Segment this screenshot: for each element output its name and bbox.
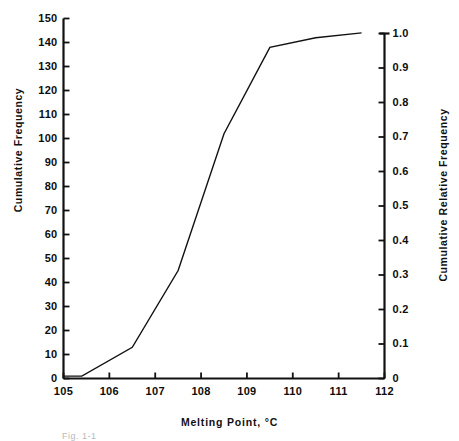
x-tick-111: 111 bbox=[314, 385, 364, 397]
y2-tick-1: 1.0 bbox=[393, 27, 433, 39]
y-tick-60: 60 bbox=[18, 228, 58, 240]
axes bbox=[64, 19, 385, 379]
x-tick-105: 105 bbox=[39, 385, 89, 397]
y-tick-130: 130 bbox=[18, 60, 58, 72]
x-tick-110: 110 bbox=[268, 385, 318, 397]
y-tick-80: 80 bbox=[18, 180, 58, 192]
y-tick-150: 150 bbox=[18, 12, 58, 24]
y2-tick-0-6: 0.6 bbox=[393, 165, 433, 177]
y-tick-110: 110 bbox=[18, 108, 58, 120]
y2-tick-0-1: 0.1 bbox=[393, 337, 433, 349]
y-tick-100: 100 bbox=[18, 132, 58, 144]
x-tick-109: 109 bbox=[222, 385, 272, 397]
y-axis-right-title: Cumulative Relative Frequency bbox=[437, 15, 449, 375]
y-tick-40: 40 bbox=[18, 276, 58, 288]
y-tick-20: 20 bbox=[18, 324, 58, 336]
y2-tick-0-7: 0.7 bbox=[393, 130, 433, 142]
y2-tick-0-5: 0.5 bbox=[393, 199, 433, 211]
y-tick-90: 90 bbox=[18, 156, 58, 168]
y-tick-120: 120 bbox=[18, 84, 58, 96]
y-tick-50: 50 bbox=[18, 252, 58, 264]
y-tick-10: 10 bbox=[18, 348, 58, 360]
x-tick-106: 106 bbox=[84, 385, 134, 397]
data-series bbox=[64, 33, 362, 376]
y2-tick-0-3: 0.3 bbox=[393, 268, 433, 280]
y-tick-30: 30 bbox=[18, 300, 58, 312]
y2-tick-0-8: 0.8 bbox=[393, 96, 433, 108]
tick-marks bbox=[64, 19, 390, 379]
x-tick-107: 107 bbox=[130, 385, 180, 397]
x-tick-112: 112 bbox=[360, 385, 410, 397]
y-tick-70: 70 bbox=[18, 204, 58, 216]
x-axis-title: Melting Point, °C bbox=[0, 416, 459, 428]
y2-tick-0-2: 0.2 bbox=[393, 303, 433, 315]
y2-tick-0-9: 0.9 bbox=[393, 61, 433, 73]
y2-tick-0: 0 bbox=[393, 372, 433, 384]
x-tick-108: 108 bbox=[176, 385, 226, 397]
y-tick-0: 0 bbox=[18, 372, 58, 384]
y-tick-140: 140 bbox=[18, 36, 58, 48]
figure-caption: Fig. 1-1 bbox=[62, 431, 97, 441]
y2-tick-0-4: 0.4 bbox=[393, 234, 433, 246]
